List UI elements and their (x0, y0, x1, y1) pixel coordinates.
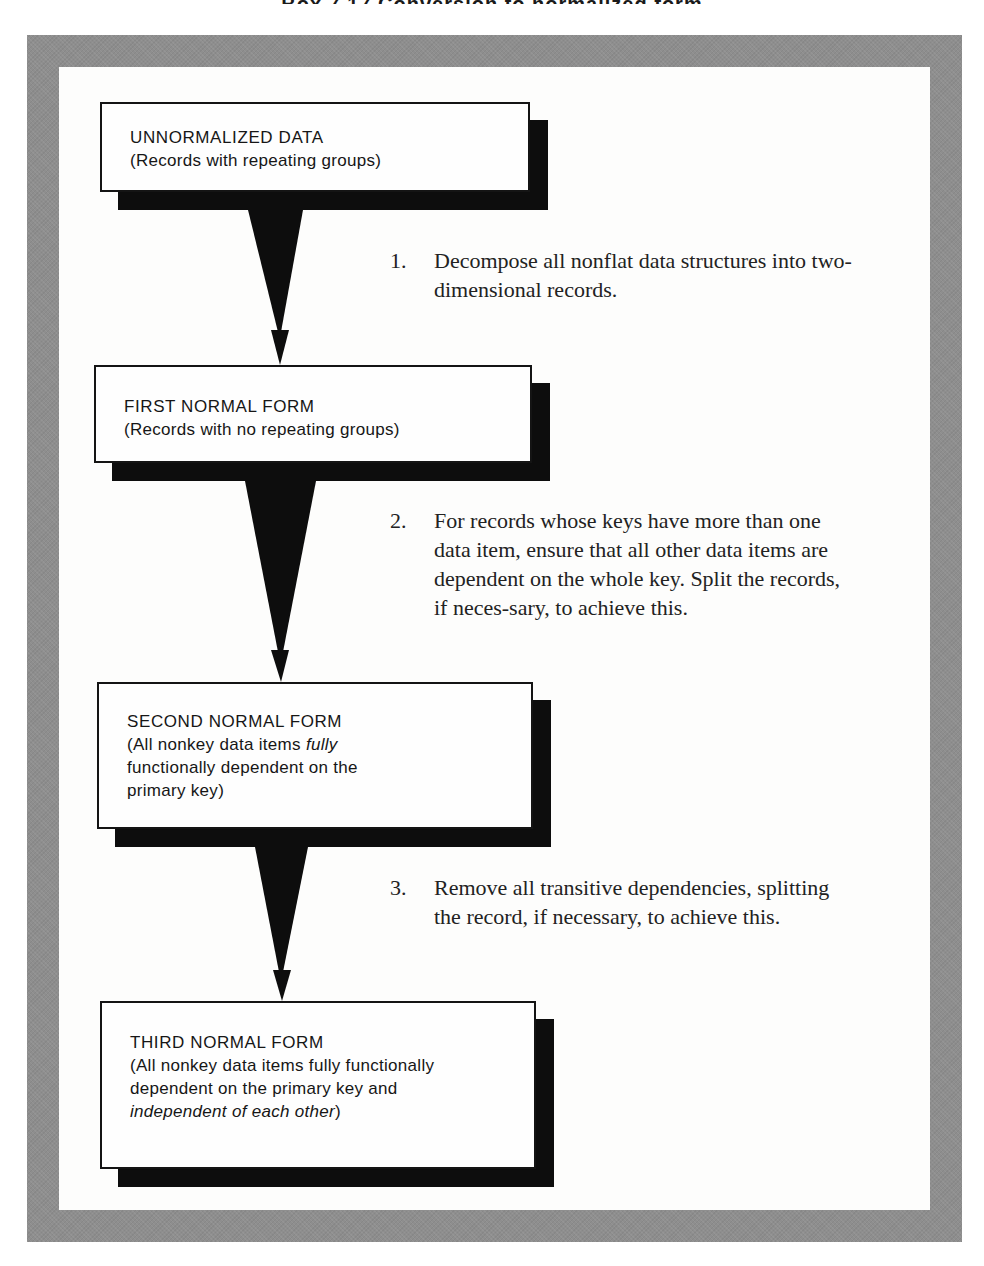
step-1: 1. Decompose all nonflat data structures… (390, 246, 870, 304)
box-description: (All nonkey data items fully functionall… (127, 733, 391, 802)
box-description: (All nonkey data items fully functionall… (130, 1054, 474, 1123)
step-number: 1. (390, 246, 407, 275)
box-second-normal-form-card: SECOND NORMAL FORM (All nonkey data item… (97, 682, 533, 829)
box-heading: THIRD NORMAL FORM (130, 1031, 474, 1054)
box-first-normal-form-card: FIRST NORMAL FORM (Records with no repea… (94, 365, 532, 463)
step-2: 2. For records whose keys have more than… (390, 506, 870, 622)
step-number: 3. (390, 873, 407, 902)
box-unnormalized-data-card: UNNORMALIZED DATA (Records with repeatin… (100, 102, 530, 192)
box-description: (Records with repeating groups) (130, 149, 504, 172)
step-3: 3. Remove all transitive dependencies, s… (390, 873, 870, 931)
box-heading: UNNORMALIZED DATA (130, 126, 504, 149)
box-description: (Records with no repeating groups) (124, 418, 506, 441)
box-heading: SECOND NORMAL FORM (127, 710, 391, 733)
step-number: 2. (390, 506, 407, 535)
box-third-normal-form-card: THIRD NORMAL FORM (All nonkey data items… (100, 1001, 536, 1169)
figure-title-cropped: Box 7.17 Conversion to normalized form (0, 0, 984, 4)
box-heading: FIRST NORMAL FORM (124, 395, 506, 418)
step-text: Remove all transitive dependencies, spli… (434, 873, 834, 931)
step-text: For records whose keys have more than on… (434, 506, 854, 622)
step-text: Decompose all nonflat data structures in… (434, 246, 870, 304)
